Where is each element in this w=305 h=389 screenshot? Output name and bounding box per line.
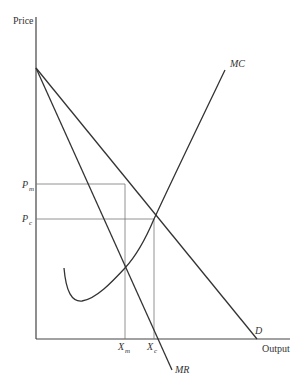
marginal-cost-curve	[64, 70, 225, 301]
monopoly-diagram: Price Output D MR MC P m P c X m X c	[0, 0, 305, 389]
mr-label: MR	[174, 364, 189, 375]
pm-label: P m	[21, 179, 34, 193]
svg-text:m: m	[29, 185, 34, 193]
svg-text:X: X	[146, 341, 154, 352]
demand-curve	[36, 68, 257, 339]
y-axis-label: Price	[13, 15, 34, 26]
pc-label: P c	[21, 213, 33, 227]
demand-label: D	[254, 325, 263, 336]
svg-text:c: c	[154, 347, 158, 355]
svg-text:c: c	[29, 219, 33, 227]
mc-label: MC	[229, 58, 245, 69]
xc-label: X c	[146, 341, 158, 355]
svg-text:X: X	[117, 341, 125, 352]
svg-text:P: P	[21, 179, 28, 190]
svg-text:m: m	[125, 347, 130, 355]
x-axis-label: Output	[262, 343, 290, 354]
svg-text:P: P	[21, 213, 28, 224]
xm-label: X m	[117, 341, 130, 355]
